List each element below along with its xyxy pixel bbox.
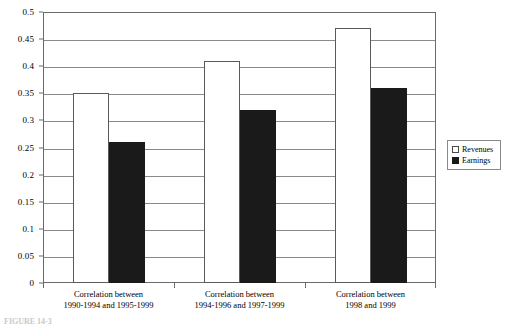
x-tick-mark: [43, 283, 44, 288]
y-tick-label: 0.5: [22, 8, 34, 17]
figure-caption: FIGURE 14-3: [4, 317, 52, 328]
y-tick-label: 0.4: [22, 62, 34, 71]
x-group-label-line1: Correlation between: [43, 289, 174, 300]
legend-item-earnings: Earnings: [452, 155, 497, 166]
bar-revenues-group-2: [204, 61, 240, 283]
bar-earnings-group-1: [109, 142, 145, 283]
legend-label: Earnings: [462, 156, 490, 165]
x-tick-mark: [435, 283, 436, 288]
bars-layer: [43, 12, 436, 283]
y-axis: 00.050.10.150.20.250.30.350.40.450.5: [0, 0, 40, 328]
x-tick-mark: [174, 283, 175, 288]
x-tick-mark: [305, 283, 306, 288]
x-group-label: Correlation between1990-1994 and 1995-19…: [43, 289, 174, 311]
x-group-label: Correlation between1998 and 1999: [305, 289, 436, 311]
x-group-label-line1: Correlation between: [174, 289, 305, 300]
x-group-label-line2: 1994-1996 and 1997-1999: [174, 300, 305, 311]
y-tick-label: 0.45: [18, 35, 34, 44]
bar-earnings-group-3: [371, 88, 407, 283]
bar-revenues-group-1: [73, 93, 109, 283]
y-tick-label: 0.05: [18, 251, 34, 260]
legend-swatch-earnings-icon: [452, 157, 459, 164]
legend-item-revenues: Revenues: [452, 144, 497, 155]
x-group-label-line2: 1990-1994 and 1995-1999: [43, 300, 174, 311]
bar-chart-figure: 00.050.10.150.20.250.30.350.40.450.5 Cor…: [0, 0, 507, 328]
y-tick-label: 0.35: [18, 89, 34, 98]
y-tick-label: 0.15: [18, 197, 34, 206]
y-tick-label: 0.25: [18, 143, 34, 152]
y-tick-label: 0.1: [22, 224, 34, 233]
x-axis-labels: Correlation between1990-1994 and 1995-19…: [43, 289, 436, 315]
legend-label: Revenues: [462, 145, 493, 154]
x-group-label: Correlation between1994-1996 and 1997-19…: [174, 289, 305, 311]
y-tick-label: 0: [29, 279, 34, 288]
bar-earnings-group-2: [240, 110, 276, 283]
y-tick-label: 0.3: [22, 116, 34, 125]
chart-legend: RevenuesEarnings: [447, 140, 501, 170]
x-group-label-line1: Correlation between: [305, 289, 436, 300]
bar-revenues-group-3: [335, 28, 371, 283]
x-group-label-line2: 1998 and 1999: [305, 300, 436, 311]
y-tick-label: 0.2: [22, 170, 34, 179]
legend-swatch-revenues-icon: [452, 146, 459, 153]
